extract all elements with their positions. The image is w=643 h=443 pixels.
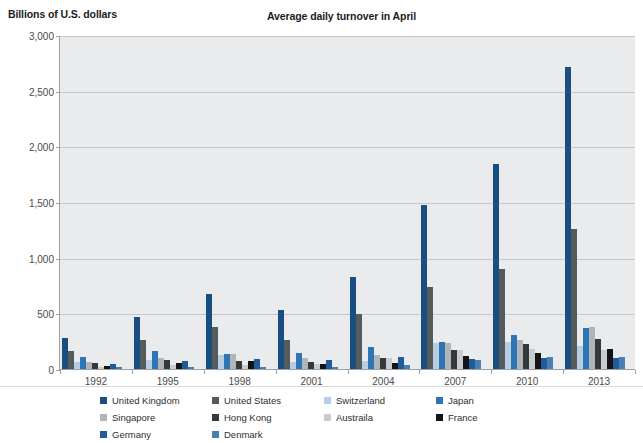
- x-tick-mark: [635, 370, 636, 374]
- plot-area: 05001,0001,5002,0002,5003,000 1992199519…: [60, 36, 635, 370]
- legend-item-label: France: [448, 412, 478, 423]
- x-tick-mark: [132, 370, 133, 374]
- legend-item[interactable]: United Kingdom: [100, 392, 212, 409]
- legend-item-label: Germany: [112, 429, 151, 440]
- y-tick-label: 2,500: [29, 86, 54, 97]
- legend-item-label: Switzerland: [336, 395, 385, 406]
- legend-item[interactable]: Austraila: [324, 409, 436, 426]
- bar-group: [276, 36, 348, 370]
- bar-group: [204, 36, 276, 370]
- legend-swatch-icon: [436, 414, 443, 421]
- legend-swatch-icon: [100, 431, 107, 438]
- legend-swatch-icon: [212, 414, 219, 421]
- legend-item[interactable]: Switzerland: [324, 392, 436, 409]
- legend-swatch-icon: [212, 431, 219, 438]
- legend-separator: [0, 386, 643, 387]
- x-tick-mark: [60, 370, 61, 374]
- y-axis-line: [59, 36, 60, 370]
- bar: [547, 357, 553, 370]
- legend-swatch-icon: [324, 397, 331, 404]
- legend-item-label: Hong Kong: [224, 412, 272, 423]
- y-tick-label: 500: [37, 309, 54, 320]
- x-tick-mark: [563, 370, 564, 374]
- legend-item-label: Singapore: [112, 412, 155, 423]
- chart-title: Average daily turnover in April: [0, 10, 643, 22]
- x-tick-mark: [276, 370, 277, 374]
- bar-group: [132, 36, 204, 370]
- legend-item[interactable]: Germany: [100, 426, 212, 443]
- x-tick-mark: [491, 370, 492, 374]
- y-tick-label: 3,000: [29, 31, 54, 42]
- legend-item[interactable]: Hong Kong: [212, 409, 324, 426]
- legend-item-label: Denmark: [224, 429, 263, 440]
- legend-item-label: United States: [224, 395, 281, 406]
- x-tick-mark: [204, 370, 205, 374]
- legend-swatch-icon: [212, 397, 219, 404]
- legend-item[interactable]: France: [436, 409, 548, 426]
- x-tick-mark: [348, 370, 349, 374]
- bar-groups: [60, 36, 635, 370]
- legend-item[interactable]: United States: [212, 392, 324, 409]
- legend-item-label: Austraila: [336, 412, 373, 423]
- y-tick-label: 0: [48, 365, 54, 376]
- legend-swatch-icon: [100, 414, 107, 421]
- bar-group: [563, 36, 635, 370]
- bar-group: [419, 36, 491, 370]
- y-tick-label: 1,000: [29, 253, 54, 264]
- bar-group: [60, 36, 132, 370]
- legend-swatch-icon: [436, 397, 443, 404]
- y-tick-label: 1,500: [29, 198, 54, 209]
- legend-item-label: Japan: [448, 395, 474, 406]
- bar-group: [491, 36, 563, 370]
- legend-swatch-icon: [324, 414, 331, 421]
- x-tick-mark: [419, 370, 420, 374]
- legend-item-label: United Kingdom: [112, 395, 180, 406]
- legend-item[interactable]: Singapore: [100, 409, 212, 426]
- legend-item[interactable]: Denmark: [212, 426, 324, 443]
- bar-group: [348, 36, 420, 370]
- legend-swatch-icon: [100, 397, 107, 404]
- chart-legend: United KingdomUnited StatesSwitzerlandJa…: [100, 392, 640, 443]
- y-tick-label: 2,000: [29, 142, 54, 153]
- x-axis-line: [59, 369, 635, 370]
- legend-item[interactable]: Japan: [436, 392, 548, 409]
